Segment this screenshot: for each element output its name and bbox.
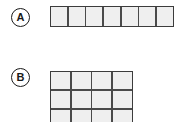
grid-b — [50, 71, 133, 122]
item-label-a: A — [11, 8, 30, 27]
grid-b-cell — [51, 72, 70, 89]
grid-b-cell — [92, 110, 111, 122]
grid-b-cell — [113, 72, 132, 89]
grid-b-cell — [113, 110, 132, 122]
grid-a-cell — [51, 7, 67, 26]
diagram-canvas: A B — [0, 0, 179, 122]
grid-b-cell — [72, 91, 91, 108]
grid-b-cell — [113, 91, 132, 108]
item-label-b-text: B — [17, 72, 25, 83]
grid-b-cell — [72, 72, 91, 89]
item-label-a-text: A — [17, 12, 25, 23]
grid-b-cell — [92, 72, 111, 89]
grid-b-cell — [92, 91, 111, 108]
grid-b-cell — [51, 91, 70, 108]
grid-a-cell — [104, 7, 120, 26]
grid-a-cell — [86, 7, 102, 26]
grid-a — [50, 6, 174, 27]
item-label-b: B — [11, 68, 30, 87]
grid-a-cell — [157, 7, 173, 26]
grid-a-cell — [139, 7, 155, 26]
grid-b-cell — [51, 110, 70, 122]
grid-b-cell — [72, 110, 91, 122]
grid-a-cell — [122, 7, 138, 26]
grid-a-cell — [69, 7, 85, 26]
